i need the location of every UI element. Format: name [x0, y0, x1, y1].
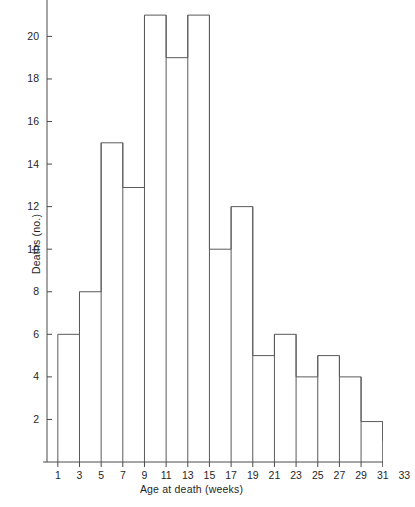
- x-tick-label: 31: [372, 470, 394, 481]
- x-tick-label: 33: [393, 470, 415, 481]
- x-tick-label: 25: [307, 470, 329, 481]
- axes-group: [43, 0, 383, 467]
- y-tick-label: 4: [13, 371, 39, 382]
- bars-group: [58, 15, 383, 462]
- x-tick-label: 13: [177, 470, 199, 481]
- y-tick-label: 20: [13, 31, 39, 42]
- x-tick-label: 9: [133, 470, 155, 481]
- y-tick-label: 12: [13, 201, 39, 212]
- y-tick-label: 18: [13, 73, 39, 84]
- x-tick-label: 7: [112, 470, 134, 481]
- x-tick-label: 23: [285, 470, 307, 481]
- y-tick-label: 14: [13, 159, 39, 170]
- x-tick-label: 19: [242, 470, 264, 481]
- x-tick-label: 1: [47, 470, 69, 481]
- x-tick-label: 29: [350, 470, 372, 481]
- y-tick-label: 2: [13, 414, 39, 425]
- y-tick-label: 16: [13, 116, 39, 127]
- y-tick-label: 8: [13, 286, 39, 297]
- y-tick-label: 6: [13, 329, 39, 340]
- y-tick-label: 10: [13, 244, 39, 255]
- x-tick-label: 11: [155, 470, 177, 481]
- x-axis-title: Age at death (weeks): [0, 483, 383, 495]
- x-tick-label: 21: [263, 470, 285, 481]
- x-tick-label: 27: [328, 470, 350, 481]
- x-tick-label: 3: [68, 470, 90, 481]
- histogram-outline: [58, 15, 383, 462]
- x-tick-label: 15: [198, 470, 220, 481]
- x-tick-label: 17: [220, 470, 242, 481]
- x-tick-label: 5: [90, 470, 112, 481]
